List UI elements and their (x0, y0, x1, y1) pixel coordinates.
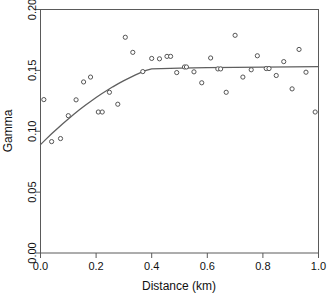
data-point (304, 70, 308, 74)
x-tick-label: 0.4 (144, 260, 159, 272)
data-points (42, 33, 318, 143)
scatter-plot-canvas: 0.00.20.40.60.81.0 0.000.050.100.150.20 … (0, 0, 332, 298)
fitted-variogram-line (41, 67, 319, 145)
y-tick-label: 0.00 (26, 242, 38, 263)
data-point (157, 57, 161, 61)
data-point (175, 70, 179, 74)
data-point (192, 70, 196, 74)
data-point (141, 69, 145, 73)
y-tick-label: 0.20 (26, 0, 38, 20)
data-point (50, 140, 54, 144)
plot-frame (41, 10, 319, 254)
data-point (290, 87, 294, 91)
y-tick-label: 0.05 (26, 181, 38, 202)
data-point (249, 68, 253, 72)
data-point (209, 56, 213, 60)
x-axis-ticks: 0.00.20.40.60.81.0 (33, 253, 326, 272)
data-point (81, 80, 85, 84)
variogram-figure: 0.00.20.40.60.81.0 0.000.050.100.150.20 … (0, 0, 332, 298)
data-point (58, 136, 62, 140)
x-tick-label: 0.2 (88, 260, 103, 272)
x-axis-title: Distance (km) (142, 279, 216, 293)
data-point (150, 56, 154, 60)
x-tick-label: 0.6 (200, 260, 215, 272)
data-point (313, 110, 317, 114)
data-point (42, 97, 46, 101)
data-point (131, 50, 135, 54)
fitted-curve (41, 67, 319, 145)
data-point (74, 98, 78, 102)
data-point (66, 114, 70, 118)
x-tick-label: 1.0 (311, 260, 326, 272)
data-point (219, 67, 223, 71)
y-tick-label: 0.10 (26, 121, 38, 142)
data-point (123, 35, 127, 39)
data-point (255, 54, 259, 58)
data-point (100, 110, 104, 114)
data-point (88, 75, 92, 79)
y-axis-ticks: 0.000.050.100.150.20 (26, 0, 41, 264)
y-axis-title: Gamma (1, 109, 15, 152)
data-point (274, 73, 278, 77)
y-tick-label: 0.15 (26, 60, 38, 81)
data-point (200, 81, 204, 85)
data-point (233, 33, 237, 37)
data-point (267, 66, 271, 70)
data-point (297, 47, 301, 51)
data-point (169, 54, 173, 58)
data-point (116, 102, 120, 106)
data-point (184, 65, 188, 69)
data-point (241, 75, 245, 79)
data-point (107, 90, 111, 94)
data-point (282, 60, 286, 64)
data-point (224, 90, 228, 94)
x-tick-label: 0.8 (255, 260, 270, 272)
